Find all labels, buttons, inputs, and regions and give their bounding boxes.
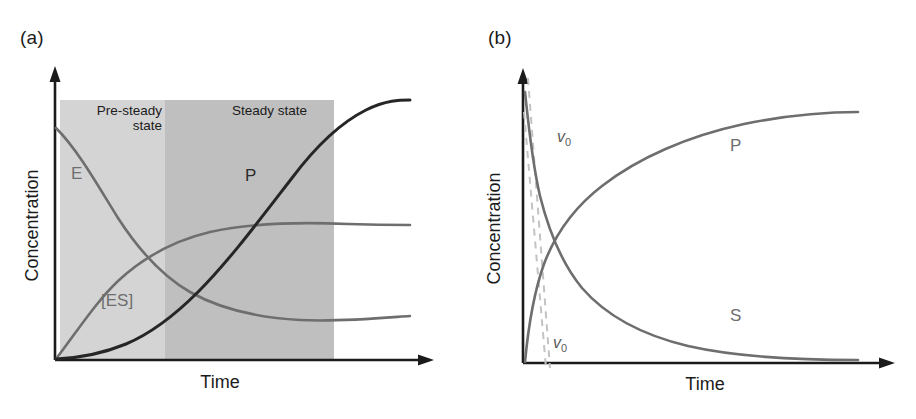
panel-a-y-axis-arrow-icon [50, 66, 61, 82]
panel-b-x-axis-arrow-icon [879, 358, 895, 369]
region-label-pre-steady-state: Pre-steady state [35, 103, 162, 133]
label-v0-upper: v0 [557, 128, 571, 148]
panel-b-y-axis-arrow-icon [518, 68, 529, 84]
region-pre-steady-state [60, 100, 165, 360]
label-v0-lower: v0 [553, 334, 567, 354]
label-v0-upper-symbol: v [557, 128, 565, 145]
curve-label-E: E [71, 164, 82, 184]
panel-a-plot [0, 0, 458, 419]
panel-a-x-axis-arrow-icon [418, 355, 434, 366]
region-label-pre-steady-state-line2: state [133, 118, 162, 133]
curve-product-P-b [525, 112, 858, 362]
region-label-steady-state: Steady state [232, 103, 307, 118]
curve-label-S: S [730, 306, 741, 326]
panel-a: (a) Concentration Time Pre-steady state … [0, 0, 458, 419]
panel-b: (b) Concentration Time v0 v0 P S [458, 0, 916, 419]
label-v0-lower-subscript: 0 [561, 342, 567, 354]
curve-label-P: P [245, 166, 256, 186]
curve-label-P-b: P [730, 136, 741, 156]
panel-b-plot [458, 0, 916, 419]
region-label-pre-steady-state-line1: Pre-steady [97, 103, 162, 118]
curve-substrate-S [525, 92, 858, 360]
curve-label-ES: [ES] [101, 291, 133, 311]
label-v0-lower-symbol: v [553, 334, 561, 351]
tangent-v0-lower [524, 112, 546, 368]
label-v0-upper-subscript: 0 [565, 136, 571, 148]
